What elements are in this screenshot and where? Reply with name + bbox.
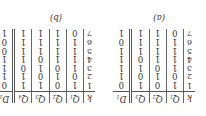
- value-cell: 1: [32, 63, 49, 72]
- value-cell: 1: [49, 37, 66, 46]
- header-label: k: [87, 93, 92, 103]
- rotated-page: k Q1 Q2 Q3 D1 11010201013101141101511116…: [0, 0, 206, 116]
- value-cell: 1: [149, 55, 166, 64]
- header-label: Q: [173, 94, 180, 104]
- table-row: 61110: [113, 37, 195, 46]
- header-label: Q: [56, 94, 63, 104]
- header-label: Q: [39, 94, 46, 104]
- caption-b: (b): [50, 13, 62, 23]
- value-cell: 1: [166, 63, 183, 72]
- value-cell: 0: [0, 37, 14, 46]
- table-row: 701111: [0, 29, 95, 38]
- value-cell: 1: [66, 37, 83, 46]
- value-cell: 1: [131, 63, 149, 72]
- header-d1: D1: [113, 92, 131, 104]
- header-q1: Q1: [66, 92, 83, 104]
- value-cell: 0: [32, 55, 49, 64]
- header-subscript: 1: [170, 94, 173, 100]
- table-a-wrapper: k Q1 Q2 Q3 D1 11010201013101141101511116…: [113, 29, 195, 103]
- header-row: k Q1 Q2 Q3 Q4 D1: [0, 92, 95, 104]
- table-row: 20101: [113, 72, 195, 81]
- value-cell: 1: [131, 37, 149, 46]
- header-label: D: [2, 94, 9, 104]
- row-index-cell: 4: [183, 55, 195, 64]
- value-cell: 1: [14, 37, 32, 46]
- value-cell: 1: [32, 37, 49, 46]
- table-a-body: 11010201013101141101511116111070111: [113, 29, 195, 92]
- value-cell: 1: [0, 63, 14, 72]
- value-cell: 0: [113, 80, 131, 91]
- header-subscript: 4: [18, 94, 21, 100]
- table-row: 611110: [0, 37, 95, 46]
- value-cell: 0: [49, 63, 66, 72]
- value-cell: 0: [131, 55, 149, 64]
- table-row: 11010: [113, 80, 195, 91]
- value-cell: 0: [149, 80, 166, 91]
- value-cell: 1: [66, 46, 83, 55]
- value-cell: 1: [149, 37, 166, 46]
- header-subscript: 2: [153, 94, 156, 100]
- row-index-cell: 7: [83, 29, 95, 38]
- header-label: Q: [73, 94, 80, 104]
- header-subscript: 2: [53, 94, 56, 100]
- value-cell: 1: [131, 80, 149, 91]
- header-subscript: 3: [35, 94, 38, 100]
- value-cell: 1: [131, 29, 149, 38]
- table-row: 511110: [0, 46, 95, 55]
- value-cell: 1: [166, 55, 183, 64]
- header-label: Q: [21, 94, 28, 104]
- value-cell: 1: [66, 63, 83, 72]
- value-cell: 1: [14, 29, 32, 38]
- header-q1: Q1: [166, 92, 183, 104]
- header-k: k: [83, 92, 95, 104]
- row-index-cell: 2: [183, 72, 195, 81]
- value-cell: 1: [14, 46, 32, 55]
- value-cell: 1: [113, 46, 131, 55]
- value-cell: 0: [113, 37, 131, 46]
- table-row: 411011: [0, 55, 95, 64]
- table-row: 41101: [113, 55, 195, 64]
- table-row: 310101: [0, 63, 95, 72]
- value-cell: 0: [32, 72, 49, 81]
- table-row: 201011: [0, 72, 95, 81]
- value-cell: 1: [14, 80, 32, 91]
- header-q3: Q3: [131, 92, 149, 104]
- value-cell: 0: [66, 72, 83, 81]
- header-subscript: 1: [70, 94, 73, 100]
- header-d1: D1: [0, 92, 14, 104]
- value-cell: 1: [14, 55, 32, 64]
- value-cell: 1: [32, 80, 49, 91]
- value-cell: 1: [149, 46, 166, 55]
- row-index-cell: 1: [83, 80, 95, 91]
- row-index-cell: 4: [83, 55, 95, 64]
- header-subscript: 3: [135, 94, 138, 100]
- truth-table-a: k Q1 Q2 Q3 D1 11010201013101141101511116…: [113, 29, 195, 103]
- header-k: k: [183, 92, 195, 104]
- value-cell: 1: [49, 46, 66, 55]
- header-subscript: 1: [0, 94, 2, 100]
- row-index-cell: 6: [83, 37, 95, 46]
- value-cell: 0: [166, 29, 183, 38]
- value-cell: 0: [149, 63, 166, 72]
- row-index-cell: 3: [83, 63, 95, 72]
- row-index-cell: 2: [83, 72, 95, 81]
- header-row: k Q1 Q2 Q3 D1: [113, 92, 195, 104]
- value-cell: 1: [14, 72, 32, 81]
- header-q2: Q2: [49, 92, 66, 104]
- row-index-cell: 3: [183, 63, 195, 72]
- table-b-wrapper: k Q1 Q2 Q3 Q4 D1 11011020101131010141101…: [0, 29, 95, 103]
- header-subscript: 1: [116, 94, 119, 100]
- header-q3: Q3: [32, 92, 49, 104]
- header-q2: Q2: [149, 92, 166, 104]
- header-label: D: [120, 94, 127, 104]
- value-cell: 1: [32, 29, 49, 38]
- value-cell: 1: [49, 55, 66, 64]
- value-cell: 1: [66, 55, 83, 64]
- header-label: Q: [139, 94, 146, 104]
- truth-table-b: k Q1 Q2 Q3 Q4 D1 11011020101131010141101…: [0, 29, 95, 103]
- row-index-cell: 5: [83, 46, 95, 55]
- value-cell: 1: [113, 63, 131, 72]
- value-cell: 0: [131, 72, 149, 81]
- table-row: 70111: [113, 29, 195, 38]
- table-row: 110110: [0, 80, 95, 91]
